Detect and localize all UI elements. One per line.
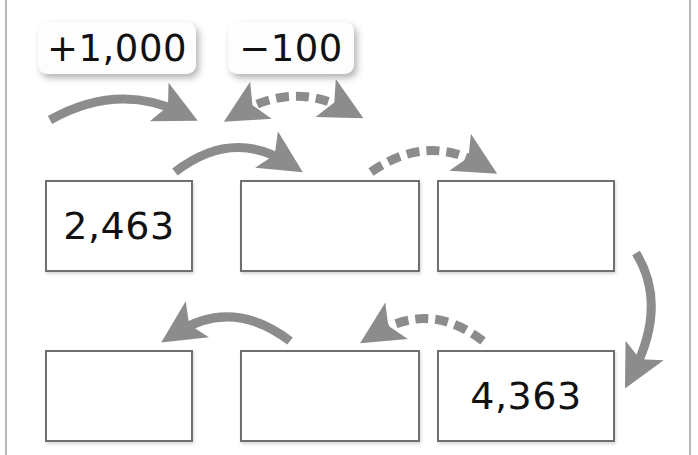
arrow-legend-add-icon [50,99,182,120]
number-box-cell-1[interactable]: 2,463 [45,180,193,272]
legend-chip-subtract: −100 [228,22,354,74]
legend-chip-add: +1,000 [38,22,196,74]
number-box-cell-1-value: 2,463 [63,204,174,248]
arrow-cell6-to-cell5 [375,319,483,341]
legend-chip-subtract-label: −100 [239,27,343,70]
number-box-cell-2[interactable] [240,180,420,272]
arrow-cell2-to-cell3 [371,151,482,172]
page-right-rule [689,0,691,455]
number-box-cell-6[interactable]: 4,363 [437,350,615,442]
arrow-cell3-to-cell6 [633,253,651,373]
arrow-cell5-to-cell4 [176,317,290,341]
page-left-rule [5,0,7,455]
arrow-cell1-to-cell2 [175,147,288,172]
legend-chip-add-label: +1,000 [47,27,187,70]
number-box-cell-5[interactable] [240,350,420,442]
number-box-cell-4[interactable] [45,350,193,442]
worksheet-page: +1,000 −100 2,463 4,363 [0,0,698,455]
number-box-cell-3[interactable] [437,180,615,272]
number-box-cell-6-value: 4,363 [470,374,581,418]
arrow-legend-subtract-icon [239,96,348,113]
